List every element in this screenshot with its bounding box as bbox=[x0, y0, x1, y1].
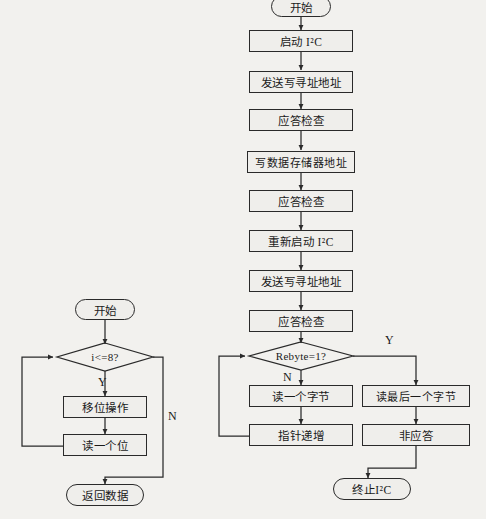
node-r-restart-label: 重新启动 I²C bbox=[268, 233, 334, 249]
edge-label-r-yes: Y bbox=[385, 333, 394, 348]
edge-l-readbit-loopback bbox=[22, 357, 63, 446]
node-r-start[interactable]: 开始 bbox=[271, 0, 331, 17]
node-l-cond-label-wrap[interactable]: i<=8? bbox=[65, 346, 145, 368]
edge-label-l-no: N bbox=[168, 409, 177, 424]
node-r-restart[interactable]: 重新启动 I²C bbox=[249, 230, 353, 252]
node-r-cond-label: Rebyte=1? bbox=[276, 350, 326, 362]
node-l-shift-label: 移位操作 bbox=[82, 399, 128, 415]
edge-label-r-no: N bbox=[283, 370, 292, 385]
node-l-return-label: 返回数据 bbox=[82, 487, 128, 503]
edge-label-l-yes: Y bbox=[98, 375, 107, 390]
node-r-ack2-label: 应答检查 bbox=[278, 193, 324, 209]
edge-l-cond-no bbox=[105, 357, 163, 484]
node-r-stop-label: 终止I²C bbox=[352, 481, 391, 497]
node-r-addr1[interactable]: 发送写寻址地址 bbox=[249, 71, 353, 93]
node-r-readlast-label: 读最后一个字节 bbox=[376, 388, 457, 404]
node-r-ack2[interactable]: 应答检查 bbox=[249, 190, 353, 212]
node-r-readone[interactable]: 读一个字节 bbox=[249, 385, 353, 407]
node-r-ptr-label: 指针递增 bbox=[278, 427, 324, 443]
node-r-addr2-label: 发送写寻址地址 bbox=[261, 273, 342, 289]
node-r-addr1-label: 发送写寻址地址 bbox=[261, 74, 342, 90]
edge-r-cond-yes bbox=[353, 356, 416, 385]
node-r-nack[interactable]: 非应答 bbox=[362, 424, 470, 446]
node-l-shift[interactable]: 移位操作 bbox=[63, 396, 147, 418]
node-r-ptr[interactable]: 指针递增 bbox=[249, 424, 353, 446]
node-l-cond-label: i<=8? bbox=[91, 351, 118, 363]
node-r-memaddr-label: 写数据存储器地址 bbox=[255, 154, 347, 170]
node-l-start-label: 开始 bbox=[94, 302, 117, 318]
node-r-ack3[interactable]: 应答检查 bbox=[249, 310, 353, 332]
edge-r-ptr-loopback bbox=[219, 356, 249, 436]
node-l-return[interactable]: 返回数据 bbox=[66, 484, 144, 506]
node-r-ack3-label: 应答检查 bbox=[278, 313, 324, 329]
node-r-cond-label-wrap[interactable]: Rebyte=1? bbox=[256, 345, 346, 367]
node-r-nack-label: 非应答 bbox=[399, 427, 434, 443]
node-l-start[interactable]: 开始 bbox=[75, 299, 135, 320]
node-l-readbit[interactable]: 读一个位 bbox=[63, 434, 147, 456]
node-r-addr2[interactable]: 发送写寻址地址 bbox=[249, 270, 353, 292]
node-r-init[interactable]: 启动 I²C bbox=[249, 30, 353, 52]
node-r-memaddr[interactable]: 写数据存储器地址 bbox=[247, 151, 355, 173]
node-r-readlast[interactable]: 读最后一个字节 bbox=[362, 385, 470, 407]
node-r-readone-label: 读一个字节 bbox=[272, 388, 330, 404]
node-r-init-label: 启动 I²C bbox=[280, 33, 323, 49]
node-r-start-label: 开始 bbox=[290, 0, 313, 15]
node-r-stop[interactable]: 终止I²C bbox=[333, 478, 411, 500]
node-r-ack1[interactable]: 应答检查 bbox=[249, 109, 353, 131]
node-l-readbit-label: 读一个位 bbox=[82, 437, 128, 453]
node-r-ack1-label: 应答检查 bbox=[278, 112, 324, 128]
edge-r-nack-stop bbox=[368, 446, 416, 478]
